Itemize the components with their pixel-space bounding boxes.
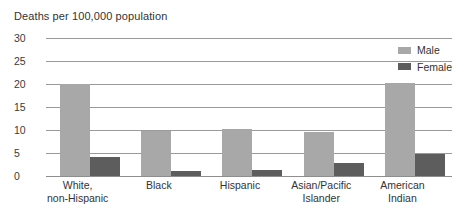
x-axis: White,non-HispanicBlackHispanicAsian/Pac… [46,179,452,205]
legend-item-female[interactable]: Female [398,62,452,73]
y-tick-label-15: 15 [14,102,40,113]
bar-chart: Deaths per 100,000 population 0510152025… [0,0,464,214]
legend-item-male[interactable]: Male [398,45,452,56]
legend-label: Female [417,62,452,73]
legend-swatch-female [398,63,411,70]
bar-male[interactable] [222,129,252,176]
bar-male[interactable] [141,131,171,176]
y-tick-label-5: 5 [14,148,40,159]
bar-female[interactable] [334,163,364,176]
bar-female[interactable] [90,157,120,176]
gridline-0 [46,176,452,177]
x-category-label: Asian/PacificIslander [290,179,371,205]
bar-group [290,38,371,176]
bar-male[interactable] [304,132,334,176]
bars-layer [46,38,452,176]
legend-swatch-male [398,47,411,54]
chart-title: Deaths per 100,000 population [14,10,167,22]
y-tick-label-0: 0 [14,171,40,182]
bar-female[interactable] [171,171,201,176]
bar-group [46,38,127,176]
y-tick-label-10: 10 [14,125,40,136]
x-category-label: White,non-Hispanic [46,179,127,205]
legend-label: Male [417,45,440,56]
chart-legend: MaleFemale [398,45,452,72]
bar-male[interactable] [60,84,90,176]
bar-female[interactable] [252,170,282,176]
y-tick-label-25: 25 [14,56,40,67]
y-tick-label-30: 30 [14,33,40,44]
bar-group [127,38,208,176]
x-category-label: Hispanic [208,179,289,205]
x-category-label: AmericanIndian [371,179,452,205]
x-category-label: Black [127,179,208,205]
y-tick-label-20: 20 [14,79,40,90]
bar-group [208,38,289,176]
y-axis: 051015202530 [14,38,46,176]
bar-female[interactable] [415,154,445,176]
bar-male[interactable] [385,83,415,176]
